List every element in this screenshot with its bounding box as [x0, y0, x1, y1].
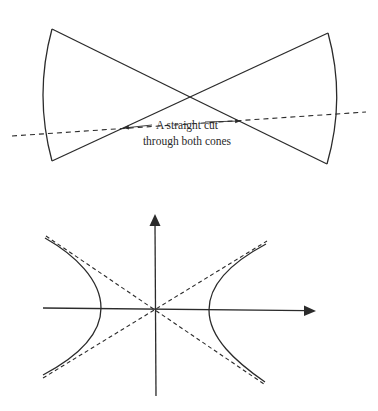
cut-label-line-2: through both cones — [128, 133, 246, 149]
hyperbola-left-branch — [43, 238, 101, 375]
figure-svg — [0, 0, 378, 411]
hyperbola-right-branch — [209, 244, 266, 382]
x-axis — [43, 308, 306, 311]
cut-label: A straight cut through both cones — [128, 117, 246, 149]
hyperbola-graph — [43, 214, 316, 396]
figure-canvas: A straight cut through both cones — [0, 0, 378, 411]
x-axis-arrow-icon — [304, 306, 316, 317]
cone-edge-upper-right — [190, 33, 328, 97]
left-cone-base-arc — [43, 29, 52, 161]
y-axis-arrow-icon — [150, 214, 161, 226]
cone-edge-upper-left — [52, 29, 190, 97]
y-axis — [155, 224, 156, 396]
cut-label-line-1: A straight cut — [128, 117, 246, 133]
right-cone-base-arc — [327, 33, 337, 164]
